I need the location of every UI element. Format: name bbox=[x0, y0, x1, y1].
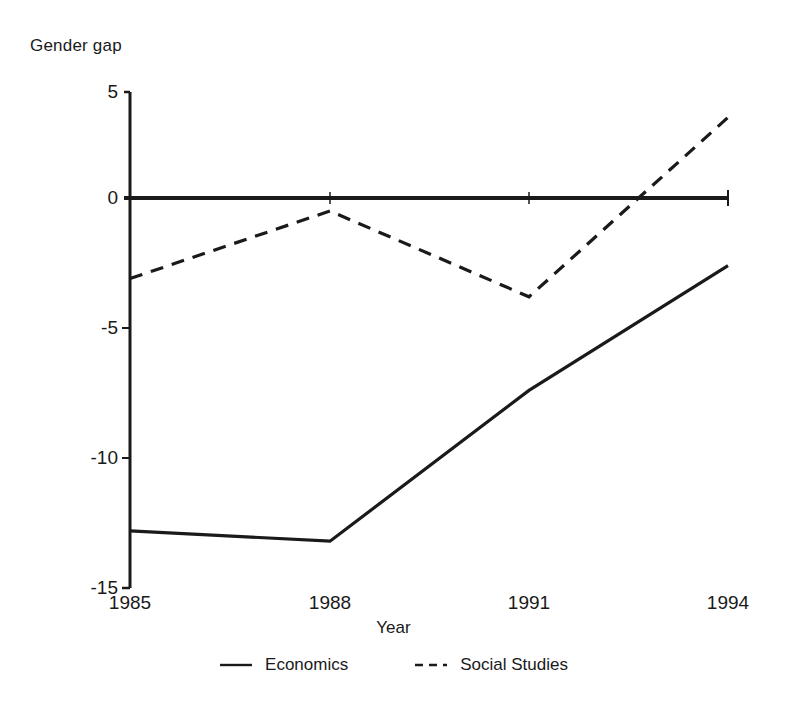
x-tick-label-1994: 1994 bbox=[678, 592, 778, 614]
y-tick-label-minus5: -5 bbox=[62, 317, 118, 339]
y-tick-label-0: 0 bbox=[78, 187, 118, 209]
series-line-economics bbox=[130, 266, 728, 542]
x-tick-label-1991: 1991 bbox=[479, 592, 579, 614]
chart-legend: Economics Social Studies bbox=[0, 655, 787, 675]
legend-label-social-studies: Social Studies bbox=[460, 655, 568, 675]
x-axis-label: Year bbox=[0, 618, 787, 638]
line-chart: Gender gap 5 0 -5 -10 -15 1985 1988 1991… bbox=[0, 0, 787, 703]
x-tick-label-1988: 1988 bbox=[280, 592, 380, 614]
legend-item-social-studies[interactable]: Social Studies bbox=[414, 655, 568, 675]
series-line-social-studies bbox=[130, 117, 728, 296]
y-tick-label-5: 5 bbox=[78, 81, 118, 103]
x-tick-label-1985: 1985 bbox=[80, 592, 180, 614]
legend-swatch-dashed-icon bbox=[414, 659, 448, 671]
y-tick-label-minus10: -10 bbox=[52, 447, 118, 469]
legend-swatch-solid-icon bbox=[219, 659, 253, 671]
legend-item-economics[interactable]: Economics bbox=[219, 655, 348, 675]
legend-label-economics: Economics bbox=[265, 655, 348, 675]
